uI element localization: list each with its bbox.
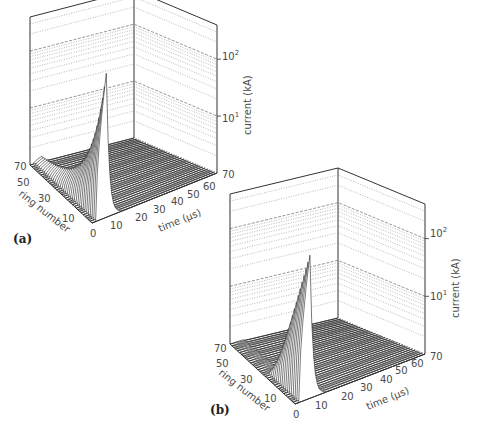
panel-b-ytick: 70 [214,343,227,354]
panel-b-xtick: 50 [395,365,408,376]
panel-b-label: (b) [210,403,230,417]
panel-a-xtick: 10 [110,220,123,231]
panel-a-zlabel: current (kA) [242,75,253,135]
panel-b-chart: (b) 70 50 30 10 ring number 0 10 20 30 4… [210,168,461,420]
panel-a-ztick: 102 [222,49,239,62]
panel-b-ztick: 101 [430,289,447,302]
panel-a-label: (a) [13,232,32,246]
panel-b-surface [230,255,425,404]
panel-a-xtick: 40 [171,196,184,207]
panel-a-chart: (a) 70 50 30 10 ring number 0 10 20 30 4… [13,0,253,246]
panel-b-xtick: 40 [380,374,393,385]
panel-b-xtick: 10 [315,400,328,411]
panel-a-ytick: 50 [17,177,30,188]
panel-b-xtick: 20 [341,391,354,402]
panel-b-ztick: 102 [430,226,447,239]
panel-b-zlabel: current (kA) [450,258,461,318]
panel-b-xtick: 70 [430,351,443,362]
panel-a-xtick: 0 [90,228,96,239]
panel-a-ztick: 101 [222,111,239,124]
panel-a-ytick: 70 [14,161,27,172]
panel-a-xtick: 50 [187,189,200,200]
panel-a-xtick: 60 [203,181,216,192]
panel-b-xtick: 60 [411,358,424,369]
panel-a-gridlines [30,0,217,156]
panel-a-xtick: 30 [153,204,166,215]
panel-a-xtick: 70 [222,169,235,180]
panel-a-surface [30,73,217,223]
figure: (a) 70 50 30 10 ring number 0 10 20 30 4… [0,0,480,437]
panel-b-gridlines [230,175,425,337]
panel-a-xtick: 20 [135,212,148,223]
panel-b-xtick: 0 [293,409,299,420]
panel-b-xtick: 30 [360,382,373,393]
